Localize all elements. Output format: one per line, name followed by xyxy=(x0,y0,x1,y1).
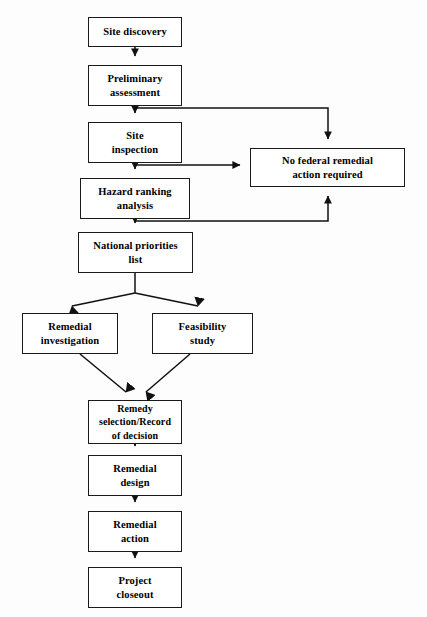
node-remedial-investigation-label: Remedial investigation xyxy=(41,320,99,348)
node-national-priorities-list: National priorities list xyxy=(78,232,193,273)
node-preliminary-assessment-label: Preliminary assessment xyxy=(107,72,162,100)
node-feasibility-study-label: Feasibility study xyxy=(179,320,227,348)
node-remedial-action: Remedial action xyxy=(88,511,182,552)
edge-remedial-investigation-to-remedy xyxy=(80,354,126,392)
edge-npl-to-remedial-investigation xyxy=(72,293,135,306)
node-remedial-action-label: Remedial action xyxy=(113,518,156,546)
node-project-closeout-label: Project closeout xyxy=(117,574,154,602)
node-no-federal-remedial-action-required-label: No federal remedial action required xyxy=(282,154,373,182)
node-project-closeout: Project closeout xyxy=(88,567,182,608)
node-remedy-selection-record-of-decision-label: Remedy selection/Record of decision xyxy=(99,402,171,442)
node-remedial-design-label: Remedial design xyxy=(113,462,156,490)
node-remedial-design: Remedial design xyxy=(88,455,182,496)
node-preliminary-assessment: Preliminary assessment xyxy=(88,65,182,106)
node-site-discovery-label: Site discovery xyxy=(103,25,167,39)
node-hazard-ranking-analysis-label: Hazard ranking analysis xyxy=(98,185,171,213)
node-hazard-ranking-analysis: Hazard ranking analysis xyxy=(80,178,190,219)
node-feasibility-study: Feasibility study xyxy=(152,313,253,354)
node-remedial-investigation: Remedial investigation xyxy=(22,313,118,354)
node-remedy-selection-record-of-decision: Remedy selection/Record of decision xyxy=(88,400,182,444)
node-national-priorities-list-label: National priorities list xyxy=(93,239,177,267)
node-site-inspection-label: Site inspection xyxy=(112,129,159,157)
flowchart-canvas: Site discovery Preliminary assessment Si… xyxy=(0,0,427,617)
node-site-discovery: Site discovery xyxy=(88,17,182,47)
node-site-inspection: Site inspection xyxy=(88,122,182,163)
edge-feasibility-to-remedy xyxy=(146,354,190,392)
edge-npl-to-feasibility-study xyxy=(135,293,198,306)
node-no-federal-remedial-action-required: No federal remedial action required xyxy=(250,148,405,187)
flowchart-connectors xyxy=(0,0,427,617)
